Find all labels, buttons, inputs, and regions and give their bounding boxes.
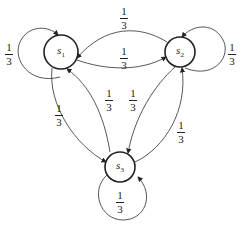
edge-s3-s2 <box>135 68 183 162</box>
prob-label-s2-s1: 13 <box>119 6 129 31</box>
prob-label-s2-s2: 13 <box>227 42 237 67</box>
prob-label-s1-s1: 13 <box>4 42 14 67</box>
node-label-s1: s1 <box>46 44 76 59</box>
prob-label-s3-s1: 13 <box>104 88 114 113</box>
prob-label-s1-s2: 13 <box>119 46 129 71</box>
node-label-s2: s2 <box>165 44 195 59</box>
prob-label-s2-s3: 13 <box>128 88 138 113</box>
node-label-s3: s3 <box>105 159 135 174</box>
prob-label-s3-s2: 13 <box>176 120 186 145</box>
prob-label-s3-s3: 13 <box>115 190 125 215</box>
prob-label-s1-s3: 13 <box>54 103 64 128</box>
